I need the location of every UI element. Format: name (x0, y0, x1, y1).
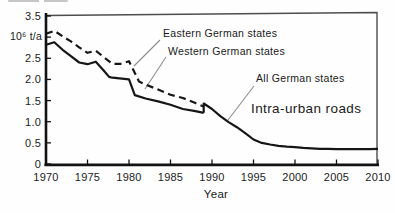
x-axis-title: Year (181, 188, 251, 200)
y-axis-tick-label: 2.0 (25, 73, 41, 85)
annotation-leader-line (145, 57, 166, 89)
x-axis-tick-label: 1970 (33, 171, 58, 183)
series-line-eastern-german-states (46, 31, 204, 107)
x-axis-tick-label: 1990 (199, 171, 224, 183)
series-label-all-german-states: All German states (256, 72, 345, 84)
annotation-intra-urban-roads: Intra-urban roads (251, 101, 361, 116)
x-axis-tick-label: 1980 (116, 171, 141, 183)
x-axis-tick-label: 1985 (158, 171, 183, 183)
x-axis-tick-label: 1995 (241, 171, 266, 183)
y-axis-tick-label: 0 (35, 158, 41, 170)
y-axis-unit-label: 10⁶ t/a (4, 30, 42, 42)
x-axis-tick-label: 2005 (324, 171, 349, 183)
y-axis-tick-label: 1.0 (25, 116, 41, 128)
series-label-eastern-german-states: Eastern German states (163, 27, 277, 39)
y-axis-tick-label: 0.5 (25, 137, 41, 149)
x-axis-tick-label: 2000 (282, 171, 307, 183)
y-axis-tick-label: 2.5 (25, 52, 41, 64)
y-axis-tick-label: 1.5 (25, 95, 41, 107)
y-axis-tick-label: 3.5 (25, 10, 41, 22)
line-chart-figure: 00.51.01.52.02.53.5197019751980198519901… (0, 0, 395, 213)
series-label-western-german-states: Western German states (168, 45, 285, 57)
x-axis-tick-label: 1975 (75, 171, 100, 183)
annotation-leader-line (134, 40, 160, 66)
x-axis-tick-label: 2010 (365, 171, 390, 183)
